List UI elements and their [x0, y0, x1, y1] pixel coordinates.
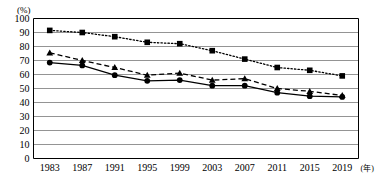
marker-square — [144, 40, 150, 46]
x-tick-label: 1987 — [72, 162, 92, 173]
x-tick-label: 1995 — [137, 162, 157, 173]
marker-circle — [144, 78, 150, 84]
marker-circle — [79, 63, 85, 69]
y-axis-labels: 0102030405060708090100 — [15, 13, 30, 164]
marker-triangle — [46, 49, 53, 55]
y-tick-label: 80 — [20, 41, 30, 52]
series-squares-dotted — [47, 28, 345, 79]
x-tick-label: 1983 — [40, 162, 60, 173]
marker-square — [79, 30, 85, 36]
x-tick-label: 2003 — [202, 162, 222, 173]
series-triangles-dashed — [46, 49, 345, 98]
x-tick-label: 2019 — [332, 162, 352, 173]
x-tick-label: 2011 — [267, 162, 287, 173]
x-tick-label: 1999 — [170, 162, 190, 173]
chart-container: 0102030405060708090100(%)198319871991199… — [0, 0, 375, 175]
x-axis-labels: 1983198719911995199920032007201120152019 — [40, 162, 353, 173]
y-tick-label: 90 — [20, 27, 30, 38]
marker-square — [274, 65, 280, 71]
marker-circle — [177, 77, 183, 83]
marker-circle — [112, 72, 118, 78]
x-tick-label: 1991 — [105, 162, 125, 173]
marker-circle — [307, 93, 313, 99]
x-axis-unit-label: (年) — [361, 163, 375, 173]
y-axis-unit-label: (%) — [17, 5, 31, 15]
marker-circle — [47, 60, 53, 66]
marker-circle — [242, 83, 248, 89]
marker-square — [47, 28, 53, 34]
y-tick-label: 0 — [25, 153, 30, 164]
marker-square — [112, 34, 118, 40]
line-chart: 0102030405060708090100(%)198319871991199… — [0, 0, 375, 175]
y-tick-label: 50 — [20, 83, 30, 94]
y-tick-label: 40 — [20, 97, 30, 108]
y-tick-label: 10 — [20, 139, 30, 150]
y-tick-label: 70 — [20, 55, 30, 66]
marker-square — [177, 41, 183, 47]
marker-square — [307, 68, 313, 74]
x-tick-label: 2015 — [300, 162, 320, 173]
marker-square — [209, 48, 215, 54]
y-tick-label: 20 — [20, 125, 30, 136]
marker-square — [242, 56, 248, 62]
y-tick-label: 30 — [20, 111, 30, 122]
y-tick-label: 60 — [20, 69, 30, 80]
x-tick-label: 2007 — [235, 162, 255, 173]
series-circles-solid — [47, 60, 345, 100]
series-line — [50, 63, 343, 97]
marker-circle — [274, 90, 280, 96]
marker-circle — [209, 83, 215, 89]
y-tick-label: 100 — [15, 13, 30, 24]
marker-square — [339, 73, 345, 79]
marker-circle — [339, 94, 345, 100]
